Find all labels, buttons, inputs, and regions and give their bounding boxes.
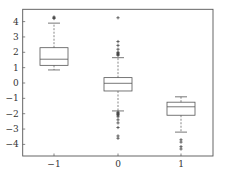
y-tick-label: 0	[13, 78, 19, 88]
outlier-marker	[116, 115, 119, 118]
y-tick-label: −1	[5, 93, 18, 103]
y-tick-label: 4	[13, 17, 19, 27]
outlier-marker	[116, 118, 119, 121]
box-group-0	[104, 16, 132, 140]
outlier-marker	[116, 40, 119, 43]
iqr-box	[104, 78, 132, 91]
y-tick-label: −3	[5, 124, 19, 134]
boxes	[40, 15, 195, 150]
outlier-marker	[116, 16, 119, 19]
plot-area-border	[23, 9, 213, 156]
iqr-box	[40, 48, 68, 66]
y-tick-label: −4	[5, 139, 19, 149]
box-group--1	[40, 15, 68, 70]
box-group-1	[167, 97, 195, 151]
y-tick-label: −2	[5, 109, 18, 119]
plot-frame	[23, 9, 213, 156]
outlier-marker	[116, 44, 119, 47]
iqr-box	[167, 102, 195, 115]
x-tick-label: −1	[47, 159, 60, 169]
outlier-marker	[116, 121, 119, 124]
outlier-marker	[116, 48, 119, 51]
outlier-marker	[116, 126, 119, 129]
outlier-marker	[179, 147, 182, 150]
y-tick-label: 2	[13, 47, 19, 57]
x-tick-label: 0	[115, 159, 121, 169]
y-axis: 43210−1−2−3−4	[5, 17, 25, 150]
y-tick-label: 1	[13, 63, 19, 73]
outlier-marker	[116, 137, 119, 140]
y-tick-label: 3	[13, 32, 19, 42]
box-plot-chart: 43210−1−2−3−4 −101	[0, 0, 225, 178]
x-tick-label: 1	[178, 159, 184, 169]
outlier-marker	[179, 140, 182, 143]
